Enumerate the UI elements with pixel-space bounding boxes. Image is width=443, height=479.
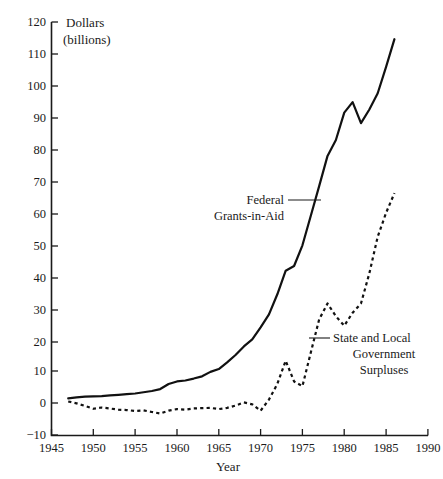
- y-axis-tick-labels: 120 110 100 90 80 70 60 50 40 30 20 10 0…: [26, 15, 46, 442]
- x-tick-label: 1990: [415, 441, 440, 455]
- y-tick-label: −10: [26, 428, 46, 442]
- x-tick-label: 1985: [374, 441, 399, 455]
- y-tick-label: 90: [34, 111, 47, 125]
- x-axis-title: Year: [216, 459, 241, 474]
- y-axis-title: Dollars (billions): [63, 15, 111, 47]
- x-tick-label: 1965: [206, 441, 231, 455]
- x-tick-label: 1945: [39, 441, 64, 455]
- y-tick-label: 100: [27, 79, 46, 93]
- y-tick-marks: [52, 22, 59, 435]
- y-tick-label: 110: [28, 47, 46, 61]
- y-tick-label: 50: [34, 239, 47, 253]
- annotation-federal-grants-in-aid: Federal Grants-in-Aid: [214, 193, 321, 223]
- annotation-state-local-line1: State and Local: [333, 331, 411, 345]
- annotation-state-local-line3: Surpluses: [360, 363, 409, 377]
- chart-container: 120 110 100 90 80 70 60 50 40 30 20 10 0…: [0, 0, 443, 479]
- y-tick-label: 40: [34, 271, 47, 285]
- x-tick-label: 1975: [290, 441, 315, 455]
- x-tick-label: 1950: [81, 441, 106, 455]
- x-tick-label: 1960: [165, 441, 190, 455]
- x-axis-tick-labels: 1945 1950 1955 1960 1965 1970 1975 1980 …: [39, 441, 440, 455]
- y-tick-label: 120: [27, 15, 46, 29]
- x-tick-marks: [52, 429, 428, 436]
- y-tick-label: 80: [34, 143, 47, 157]
- y-tick-label: 0: [40, 396, 46, 410]
- annotation-state-local-surpluses: State and Local Government Surpluses: [309, 331, 416, 377]
- y-tick-label: 10: [34, 364, 47, 378]
- y-tick-label: 60: [34, 207, 47, 221]
- y-tick-label: 30: [34, 303, 47, 317]
- annotation-federal-line2: Grants-in-Aid: [214, 209, 285, 223]
- series-state-local-surpluses: [68, 193, 394, 413]
- y-axis-title-line2: (billions): [63, 32, 111, 47]
- y-axis-title-line1: Dollars: [66, 15, 104, 30]
- annotation-federal-line1: Federal: [247, 193, 285, 207]
- y-tick-label: 70: [34, 175, 47, 189]
- annotation-state-local-line2: Government: [353, 347, 416, 361]
- x-tick-label: 1980: [332, 441, 357, 455]
- x-tick-label: 1955: [123, 441, 148, 455]
- line-chart: 120 110 100 90 80 70 60 50 40 30 20 10 0…: [0, 0, 443, 479]
- x-tick-label: 1970: [248, 441, 273, 455]
- y-tick-label: 20: [34, 335, 47, 349]
